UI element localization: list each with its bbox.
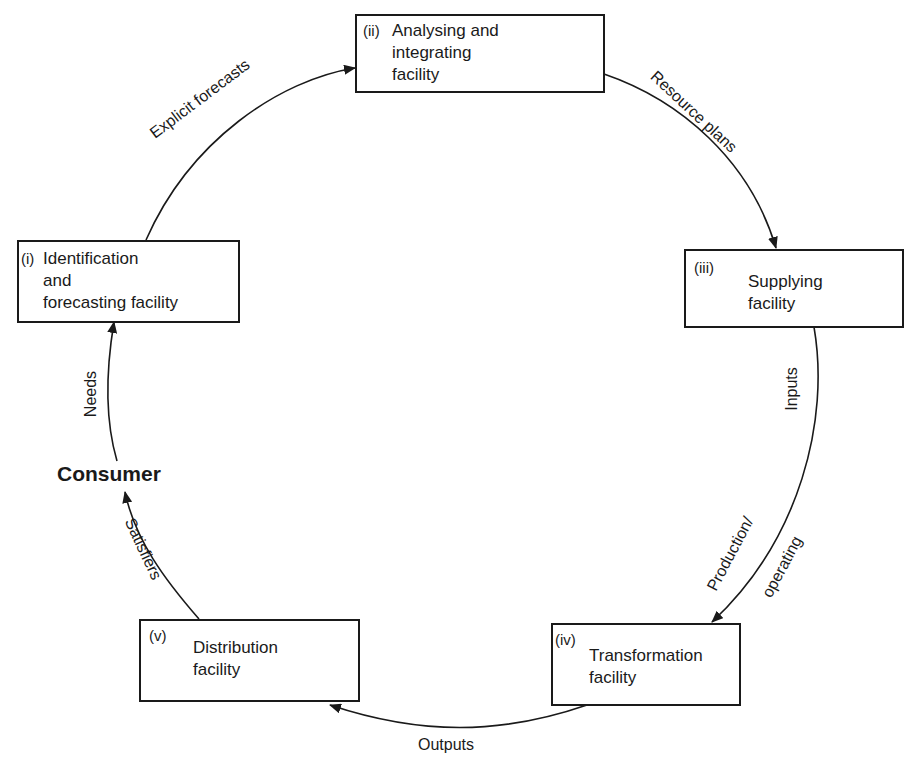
- node-number: (iv): [555, 631, 576, 648]
- node-label: Supplying facility: [748, 271, 823, 315]
- cycle-arcs: [0, 0, 918, 765]
- node-transformation: (iv) Transformation facility: [551, 623, 741, 706]
- node-number: (iii): [694, 259, 714, 276]
- node-distribution: (v) Distribution facility: [139, 619, 360, 702]
- arrow-outputs: [330, 705, 587, 728]
- node-label: Distribution facility: [193, 637, 278, 681]
- node-analysing-integrating: (ii) Analysing and integrating facility: [355, 14, 605, 93]
- arrow-needs: [108, 322, 117, 461]
- node-label: Transformation facility: [589, 645, 703, 689]
- node-label: Identification and forecasting facility: [43, 248, 178, 314]
- node-number: (ii): [363, 22, 380, 39]
- flow-label-inputs: Inputs: [783, 367, 801, 411]
- node-number: (v): [149, 627, 167, 644]
- flow-label-needs: Needs: [82, 371, 100, 417]
- node-number: (i): [21, 250, 34, 267]
- node-supplying: (iii) Supplying facility: [684, 249, 904, 328]
- node-label: Analysing and integrating facility: [392, 20, 499, 86]
- arrow-explicit-forecasts: [146, 68, 355, 240]
- consumer-label: Consumer: [57, 462, 161, 486]
- node-identification-forecasting: (i) Identification and forecasting facil…: [17, 240, 240, 323]
- flow-label-outputs: Outputs: [418, 736, 474, 754]
